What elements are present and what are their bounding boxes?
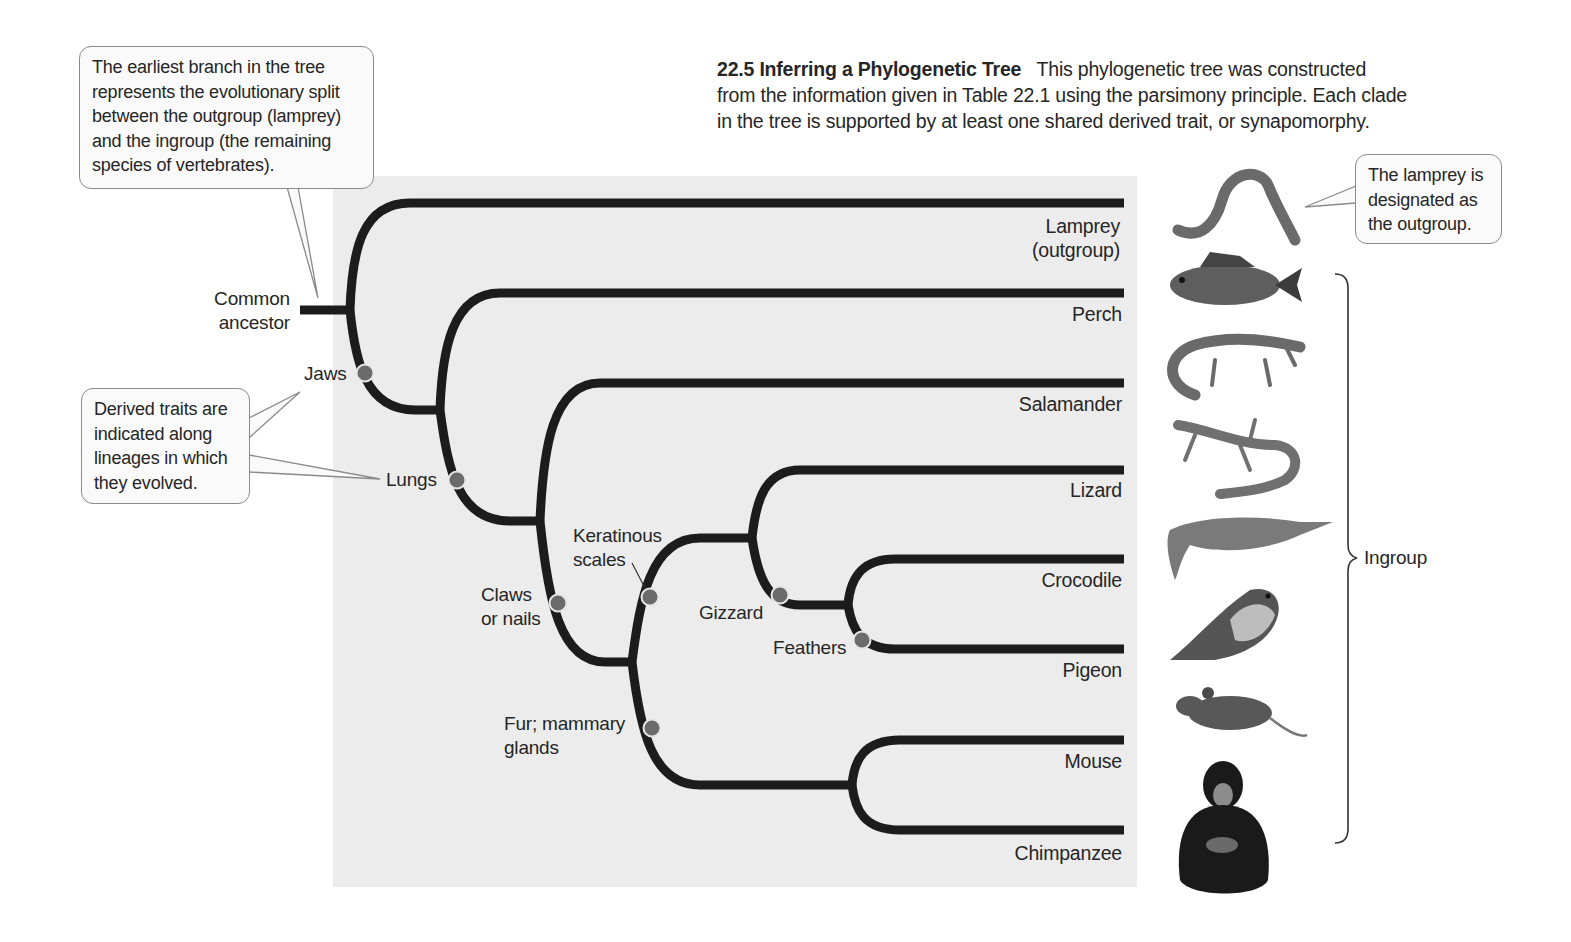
trait-label-text: Feathers (773, 637, 846, 658)
ingroup-label-text: Ingroup (1364, 547, 1427, 568)
salamander-illustration (1173, 339, 1301, 395)
taxon-label-pigeon: Pigeon (960, 658, 1122, 682)
taxon-name: Lamprey (960, 214, 1120, 238)
trait-dot-fur (644, 720, 661, 737)
taxon-name: Chimpanzee (1015, 842, 1122, 864)
trait-label-fur: Fur; mammary glands (504, 712, 625, 760)
figure-number: 22.5 (717, 58, 754, 80)
trait-dot-claws (550, 595, 567, 612)
trait-dot-keratinous (642, 589, 659, 606)
trait-label-gizzard: Gizzard (699, 601, 763, 625)
branch-chimpanzee (852, 785, 1124, 830)
callout-outgroup: The lamprey is designated as the outgrou… (1355, 154, 1502, 244)
branch-node7 (632, 662, 852, 785)
ingroup-label: Ingroup (1364, 546, 1427, 570)
taxon-label-salamander: Salamander (960, 392, 1122, 416)
taxon-name: Pigeon (1062, 659, 1122, 681)
ingroup-bracket (1335, 274, 1357, 843)
taxon-name: Perch (1072, 303, 1122, 325)
taxon-label-lamprey: Lamprey (outgroup) (960, 214, 1120, 262)
taxon-name: Lizard (1070, 479, 1122, 501)
perch-illustration (1170, 252, 1302, 305)
trait-label-text: Fur; mammary (504, 712, 625, 736)
trait-dot-feathers (854, 632, 871, 649)
callout-line: The lamprey is (1368, 163, 1489, 188)
trait-label-keratinous: Keratinous scales (573, 524, 662, 572)
trait-label-text: or nails (481, 607, 541, 631)
callout-line: between the outgroup (lamprey) (92, 104, 361, 129)
root-label-line: ancestor (190, 311, 290, 335)
callout-line: species of vertebrates). (92, 153, 361, 178)
crocodile-illustration (1168, 517, 1333, 580)
callout-earliest-branch: The earliest branch in the tree represen… (79, 46, 374, 189)
caption-line-3: in the tree is supported by at least one… (717, 108, 1477, 134)
trait-label-text: Gizzard (699, 602, 763, 623)
trait-dot-jaws (357, 365, 374, 382)
taxon-label-mouse: Mouse (960, 749, 1122, 773)
callout-line: designated as (1368, 188, 1489, 213)
taxon-name: Mouse (1064, 750, 1122, 772)
caption-line-2: from the information given in Table 22.1… (717, 82, 1477, 108)
lamprey-illustration (1178, 174, 1295, 240)
figure-caption: 22.5 Inferring a Phylogenetic Tree This … (717, 56, 1477, 134)
taxon-label-perch: Perch (960, 302, 1122, 326)
callout-line: indicated along (94, 422, 237, 447)
taxon-label-lizard: Lizard (960, 478, 1122, 502)
taxon-label-crocodile: Crocodile (960, 568, 1122, 592)
trait-label-text: Keratinous (573, 524, 662, 548)
callout-derived-traits: Derived traits are indicated along linea… (81, 388, 250, 504)
mouse-illustration (1176, 687, 1307, 736)
taxon-subtitle: (outgroup) (960, 238, 1120, 262)
branch-node3 (440, 410, 540, 521)
chimpanzee-illustration (1179, 761, 1269, 894)
callout-line: represents the evolutionary split (92, 80, 361, 105)
callout-line: Derived traits are (94, 397, 237, 422)
trait-label-feathers: Feathers (773, 636, 846, 660)
callout-line: the outgroup. (1368, 212, 1489, 237)
branch-node6 (752, 538, 848, 605)
animal-illustrations (1168, 174, 1333, 893)
trait-dot-lungs (449, 472, 466, 489)
figure-title: Inferring a Phylogenetic Tree (759, 58, 1021, 80)
trait-label-text: Jaws (304, 363, 347, 384)
callout-line: The earliest branch in the tree (92, 55, 361, 80)
trait-label-text: scales (573, 548, 662, 572)
trait-label-claws: Claws or nails (481, 583, 541, 631)
trait-label-text: Lungs (386, 469, 437, 490)
taxon-name: Salamander (1019, 393, 1122, 415)
callout-line: lineages in which (94, 446, 237, 471)
branch-pigeon (848, 605, 1124, 649)
trait-label-jaws: Jaws (304, 362, 347, 386)
root-label-line: Common (190, 287, 290, 311)
lizard-illustration (1178, 420, 1295, 494)
callout-line: they evolved. (94, 471, 237, 496)
branch-node2 (350, 310, 440, 410)
caption-line-1: This phylogenetic tree was constructed (1037, 58, 1367, 80)
trait-label-text: Claws (481, 583, 541, 607)
trait-label-lungs: Lungs (386, 468, 437, 492)
pigeon-illustration (1170, 589, 1279, 660)
trait-dot-gizzard (772, 587, 789, 604)
taxon-label-chimpanzee: Chimpanzee (960, 841, 1122, 865)
callout-line: and the ingroup (the remaining (92, 129, 361, 154)
common-ancestor-label: Common ancestor (190, 287, 290, 335)
trait-label-text: glands (504, 736, 625, 760)
taxon-name: Crocodile (1041, 569, 1122, 591)
